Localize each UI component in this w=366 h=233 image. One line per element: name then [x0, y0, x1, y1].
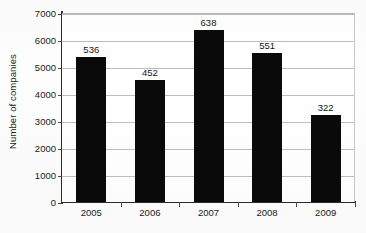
y-tick-label: 4000 — [35, 89, 56, 100]
x-tick-label: 2007 — [198, 207, 219, 218]
bar-value-label: 536 — [83, 44, 99, 55]
y-tick-label: 1000 — [35, 170, 56, 181]
x-tick-label: 2008 — [257, 207, 278, 218]
y-tick-label: 6000 — [35, 35, 56, 46]
bar-value-label: 551 — [259, 40, 275, 51]
y-tick-label: 0 — [51, 197, 56, 208]
y-tick-mark — [58, 95, 62, 96]
gridline — [62, 14, 354, 15]
y-tick-mark — [58, 149, 62, 150]
x-axis-tick-labels: 20052006200720082009 — [62, 207, 355, 223]
plot-area — [62, 13, 355, 202]
y-axis-title-label: Number of companies — [7, 54, 18, 149]
y-axis-title: Number of companies — [2, 0, 22, 202]
y-tick-mark — [58, 68, 62, 69]
bar-value-label: 322 — [318, 102, 334, 113]
bar — [311, 115, 341, 202]
y-tick-mark — [58, 14, 62, 15]
y-tick-label: 7000 — [35, 8, 56, 19]
bar-chart-figure: Number of companies 01000200030004000500… — [0, 0, 366, 233]
bar — [135, 80, 165, 202]
x-tick-label: 2005 — [81, 207, 102, 218]
x-tick-mark — [238, 202, 239, 207]
y-tick-label: 3000 — [35, 116, 56, 127]
x-tick-label: 2009 — [315, 207, 336, 218]
y-tick-mark — [58, 122, 62, 123]
y-tick-mark — [58, 176, 62, 177]
y-tick-mark — [58, 41, 62, 42]
bar-value-label: 638 — [201, 17, 217, 28]
y-tick-mark — [58, 203, 62, 204]
y-tick-label: 5000 — [35, 62, 56, 73]
x-tick-mark — [296, 202, 297, 207]
bar — [252, 53, 282, 202]
y-axis-tick-labels: 01000200030004000500060007000 — [22, 13, 58, 202]
x-tick-mark — [121, 202, 122, 207]
bar — [194, 30, 224, 202]
x-tick-mark — [355, 202, 356, 207]
x-tick-mark — [179, 202, 180, 207]
y-tick-label: 2000 — [35, 143, 56, 154]
bar — [76, 57, 106, 202]
x-tick-label: 2006 — [139, 207, 160, 218]
bar-value-label: 452 — [142, 67, 158, 78]
